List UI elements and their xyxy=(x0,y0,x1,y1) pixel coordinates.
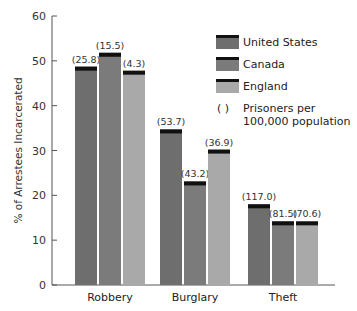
bar-united-states xyxy=(160,129,182,285)
legend-paren-symbol: ( ) xyxy=(217,102,229,115)
y-tick-label: 40 xyxy=(32,100,46,113)
bar-cap xyxy=(272,221,294,225)
y-tick-label: 20 xyxy=(32,189,46,202)
bar-cap xyxy=(99,53,121,57)
legend-label: United States xyxy=(243,36,318,49)
bar-canada xyxy=(99,53,121,285)
legend-note-line1: Prisoners per xyxy=(243,102,316,115)
bars: (25.8)(15.5)(4.3)(53.7)(43.2)(36.9)(117.… xyxy=(72,40,322,285)
bar-cap xyxy=(75,67,97,71)
x-category-label: Robbery xyxy=(87,291,133,304)
bar-england xyxy=(123,71,145,285)
bar-annotation: (53.7) xyxy=(157,116,186,127)
legend-note-line2: 100,000 population xyxy=(243,115,351,128)
legend-swatch-cap xyxy=(216,79,239,82)
bar-cap xyxy=(160,129,182,133)
legend-swatch-cap xyxy=(216,35,239,38)
legend-label: England xyxy=(243,80,288,93)
y-axis-label: % of Arrestees Incarcerated xyxy=(12,77,24,223)
bar-cap xyxy=(248,204,270,208)
y-tick-label: 50 xyxy=(32,55,46,68)
bar-chart: 0102030405060% of Arrestees Incarcerated… xyxy=(0,0,357,311)
bar-canada xyxy=(184,181,206,285)
bar-canada xyxy=(272,221,294,285)
y-tick-label: 30 xyxy=(32,145,46,158)
bar-england xyxy=(208,150,230,285)
y-tick-label: 10 xyxy=(32,234,46,247)
y-tick-label: 0 xyxy=(39,279,46,292)
bar-annotation: (36.9) xyxy=(205,137,234,148)
y-tick-label: 60 xyxy=(32,10,46,23)
bar-united-states xyxy=(75,67,97,285)
legend-swatch-cap xyxy=(216,57,239,60)
bar-annotation: (43.2) xyxy=(181,168,210,179)
bar-cap xyxy=(123,71,145,75)
bar-cap xyxy=(184,181,206,185)
legend: United StatesCanadaEngland( )Prisoners p… xyxy=(216,35,351,128)
bar-england xyxy=(296,221,318,285)
bar-annotation: (4.3) xyxy=(123,58,146,69)
bar-united-states xyxy=(248,204,270,285)
bar-annotation: (117.0) xyxy=(242,191,277,202)
bar-cap xyxy=(296,221,318,225)
x-category-label: Theft xyxy=(268,291,298,304)
bar-annotation: (70.6) xyxy=(293,208,322,219)
bar-annotation: (25.8) xyxy=(72,54,101,65)
legend-label: Canada xyxy=(243,58,285,71)
x-category-label: Burglary xyxy=(172,291,219,304)
bar-annotation: (15.5) xyxy=(96,40,125,51)
bar-cap xyxy=(208,150,230,154)
